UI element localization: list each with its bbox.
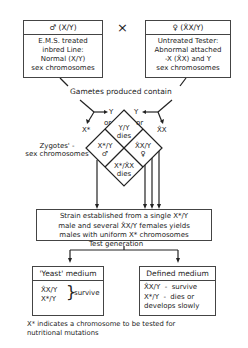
defined-medium-header: Defined medium bbox=[140, 267, 215, 281]
gamete-left-y: Y bbox=[109, 108, 113, 116]
female-connector bbox=[180, 78, 186, 86]
gamete-left-x: X* bbox=[82, 126, 90, 134]
male-parent-description: E.M.S. treated inbred Line: Normal (X/Y)… bbox=[24, 35, 102, 73]
strain-description: Strain established from a single X*/Y ma… bbox=[37, 212, 211, 241]
male-parent-header: ♂ (X/Y) bbox=[24, 21, 102, 35]
footnote: X* indicates a chromosome to be tested f… bbox=[27, 320, 175, 338]
left-gamete-branch bbox=[80, 100, 94, 112]
yeast-result: survive bbox=[74, 289, 100, 297]
zygotes-label: Zygotes' - sex chromosomes bbox=[24, 142, 90, 158]
defined-medium-box: Defined medium X̂X/Y - survive X*/Y - di… bbox=[139, 266, 216, 316]
female-parent-box: ♀ (X̂X/Y) Untreated Tester: Abnormal att… bbox=[145, 20, 231, 78]
female-parent-header: ♀ (X̂X/Y) bbox=[146, 21, 230, 35]
gamete-right-x: X̂X bbox=[157, 126, 167, 134]
yeast-medium-header: 'Yeast' medium bbox=[33, 267, 103, 281]
zygote-top: Y/Y dies bbox=[112, 124, 136, 140]
yeast-medium-box: 'Yeast' medium X̂X/Y X*/Y } survive bbox=[32, 266, 104, 316]
right-gamete-branch bbox=[158, 100, 172, 112]
male-connector bbox=[60, 78, 68, 86]
test-generation-label: Test generation bbox=[89, 240, 143, 248]
zygote-bottom: X*/X̂X dies bbox=[110, 162, 138, 178]
gamete-right-or: or bbox=[136, 119, 143, 127]
strain-box: Strain established from a single X*/Y ma… bbox=[36, 209, 212, 241]
cross-symbol: × bbox=[117, 20, 128, 35]
female-parent-description: Untreated Tester: Abnormal attached -X (… bbox=[146, 35, 230, 73]
gametes-label: Gametes produced contain bbox=[70, 88, 172, 96]
gamete-right-y: Y bbox=[134, 108, 138, 116]
zygote-right: X̂X/Y ♀ bbox=[130, 142, 156, 158]
arrowhead-right-y bbox=[142, 110, 146, 114]
arrowhead-left-y bbox=[104, 110, 108, 114]
male-parent-box: ♂ (X/Y) E.M.S. treated inbred Line: Norm… bbox=[23, 20, 103, 78]
gamete-left-or: or bbox=[104, 119, 111, 127]
defined-medium-results: X̂X/Y - survive X*/Y - dies or develops … bbox=[140, 281, 215, 312]
yeast-genotypes: X̂X/Y X*/Y bbox=[41, 286, 57, 304]
zygote-left: X*/Y ♂ bbox=[93, 142, 117, 158]
